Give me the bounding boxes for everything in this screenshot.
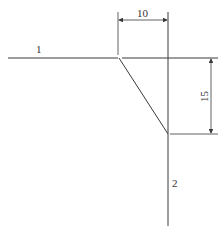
slanted-connector	[119, 58, 168, 134]
dimension-label-10: 10	[137, 7, 149, 19]
dimension-label-15: 15	[198, 91, 210, 103]
diagram-canvas: 1 2 10 15	[0, 0, 224, 237]
label-line-2: 2	[172, 177, 178, 189]
dimension-vertical	[170, 59, 218, 134]
label-line-1: 1	[36, 43, 42, 55]
